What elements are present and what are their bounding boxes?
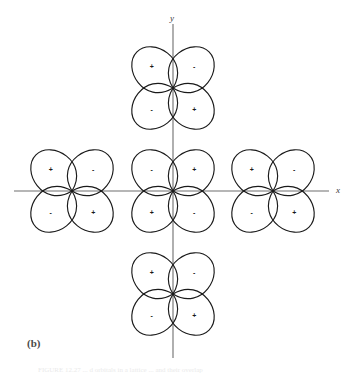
- y-axis-label: y: [169, 13, 174, 23]
- x-axis-label: x: [335, 185, 340, 195]
- phase-sign-label: +: [150, 63, 154, 70]
- orbital-lattice-figure: x y +-+-+-+--+-++-+-+-+- (b) FIGURE 12.2…: [0, 0, 349, 377]
- phase-sign-label: +: [91, 209, 95, 216]
- phase-sign-label: +: [192, 312, 196, 319]
- phase-sign-label: +: [150, 209, 154, 216]
- panel-label: (b): [27, 337, 40, 349]
- phase-sign-label: +: [250, 166, 254, 173]
- panel-label-text: (b): [27, 337, 40, 349]
- phase-sign-label: +: [292, 209, 296, 216]
- phase-sign-label: +: [150, 269, 154, 276]
- phase-sign-label: +: [49, 166, 53, 173]
- caption-fragment: FIGURE 12.27 ... d orbitals in a lattice…: [38, 366, 253, 374]
- phase-sign-label: +: [192, 166, 196, 173]
- orbital-diagram-canvas: x y +-+-+-+--+-++-+-+-+-: [0, 0, 349, 377]
- phase-sign-label: +: [192, 106, 196, 113]
